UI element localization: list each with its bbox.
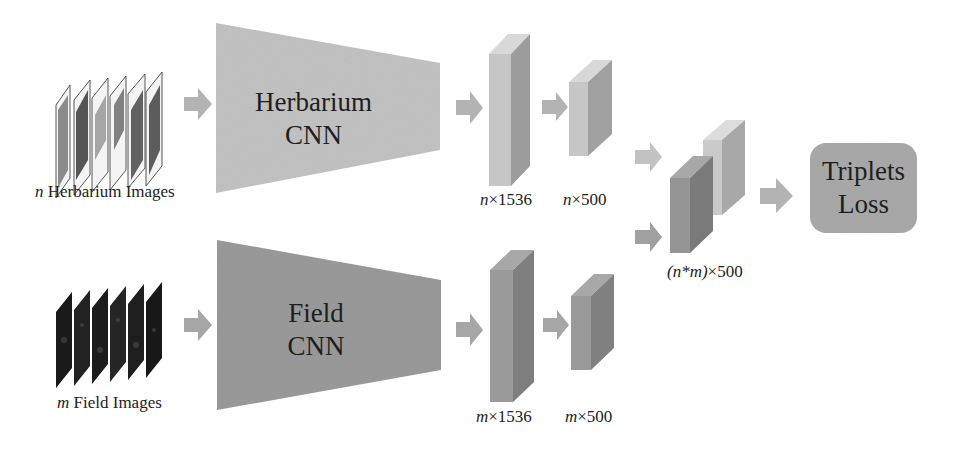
herbarium-500-label: n×500 (563, 190, 607, 210)
field-feature-500 (571, 274, 614, 370)
arrow-icon (456, 91, 483, 124)
diagram-canvas (0, 0, 955, 451)
herbarium-1536-label: n×1536 (480, 190, 532, 210)
field-count-var: m (57, 393, 69, 412)
field-feature-1536 (490, 250, 534, 402)
var: n (563, 190, 572, 209)
herbarium-images-text: Herbarium Images (44, 182, 175, 201)
field-cnn-line1: Field (256, 297, 376, 330)
dim: ×1536 (489, 190, 533, 209)
var: m (476, 407, 488, 426)
dim: ×500 (577, 407, 612, 426)
var: n (480, 190, 489, 209)
dim: ×1536 (488, 407, 532, 426)
herbarium-count-var: n (35, 182, 44, 201)
dim: ×500 (708, 262, 743, 281)
herbarium-feature-1536 (489, 34, 530, 186)
combined-500-label: (n*m)×500 (667, 262, 743, 282)
dim: ×500 (572, 190, 607, 209)
herbarium-cnn-label: Herbarium CNN (246, 86, 381, 152)
arrow-icon (542, 92, 568, 121)
arrow-icon (635, 222, 662, 252)
loss-line2: Loss (810, 188, 917, 221)
arrow-icon (184, 309, 212, 341)
combined-feature-500 (670, 120, 745, 253)
var: (n*m) (667, 262, 708, 281)
field-500-label: m×500 (565, 407, 612, 427)
var: m (565, 407, 577, 426)
herbarium-image-stack (56, 72, 162, 198)
arrow-icon (635, 142, 662, 172)
field-images-text: Field Images (69, 393, 162, 412)
triplets-loss-label: Triplets Loss (810, 155, 917, 221)
herbarium-cnn-line2: CNN (246, 119, 381, 152)
field-images-label: m Field Images (57, 393, 162, 413)
arrow-icon (543, 310, 569, 340)
arrow-icon (456, 313, 483, 346)
arrow-icon (184, 88, 212, 120)
field-cnn-line2: CNN (256, 330, 376, 363)
herbarium-images-label: n Herbarium Images (35, 182, 175, 202)
herbarium-feature-500 (569, 60, 612, 156)
field-1536-label: m×1536 (476, 407, 532, 427)
arrow-icon (760, 178, 793, 213)
herbarium-cnn-line1: Herbarium (246, 86, 381, 119)
field-cnn-label: Field CNN (256, 297, 376, 363)
loss-line1: Triplets (810, 155, 917, 188)
field-image-stack (56, 282, 162, 388)
